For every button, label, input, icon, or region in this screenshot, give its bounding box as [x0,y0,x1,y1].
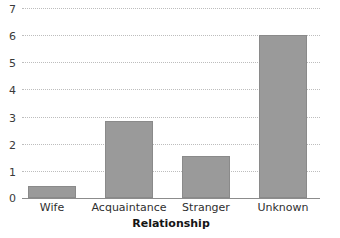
bar-wife[interactable] [28,186,76,198]
bar-stranger[interactable] [182,156,230,198]
ytick-label-5: 5 [9,58,16,69]
ytick-label-3: 3 [9,112,16,123]
xtick-label-stranger: Stranger [182,201,230,215]
ytick-label-4: 4 [9,85,16,96]
bar-unknown[interactable] [259,35,307,198]
ytick-label-0: 0 [9,193,16,204]
xtick-label-wife: Wife [40,201,64,215]
ytick-label-7: 7 [9,4,16,15]
bar-chart-figure: 7 6 5 4 3 2 1 0 Wife Acquai [0,0,340,238]
ytick-label-2: 2 [9,139,16,150]
ytick-label-1: 1 [9,166,16,177]
bars-layer [22,8,320,198]
ytick-label-6: 6 [9,31,16,42]
x-axis-line [22,198,320,199]
xtick-label-acquaintance: Acquaintance [92,201,167,215]
x-axis-title: Relationship [22,217,320,231]
bar-acquaintance[interactable] [105,121,153,198]
xtick-label-unknown: Unknown [257,201,308,215]
xtick-labels: Wife Acquaintance Stranger Unknown [22,201,320,217]
